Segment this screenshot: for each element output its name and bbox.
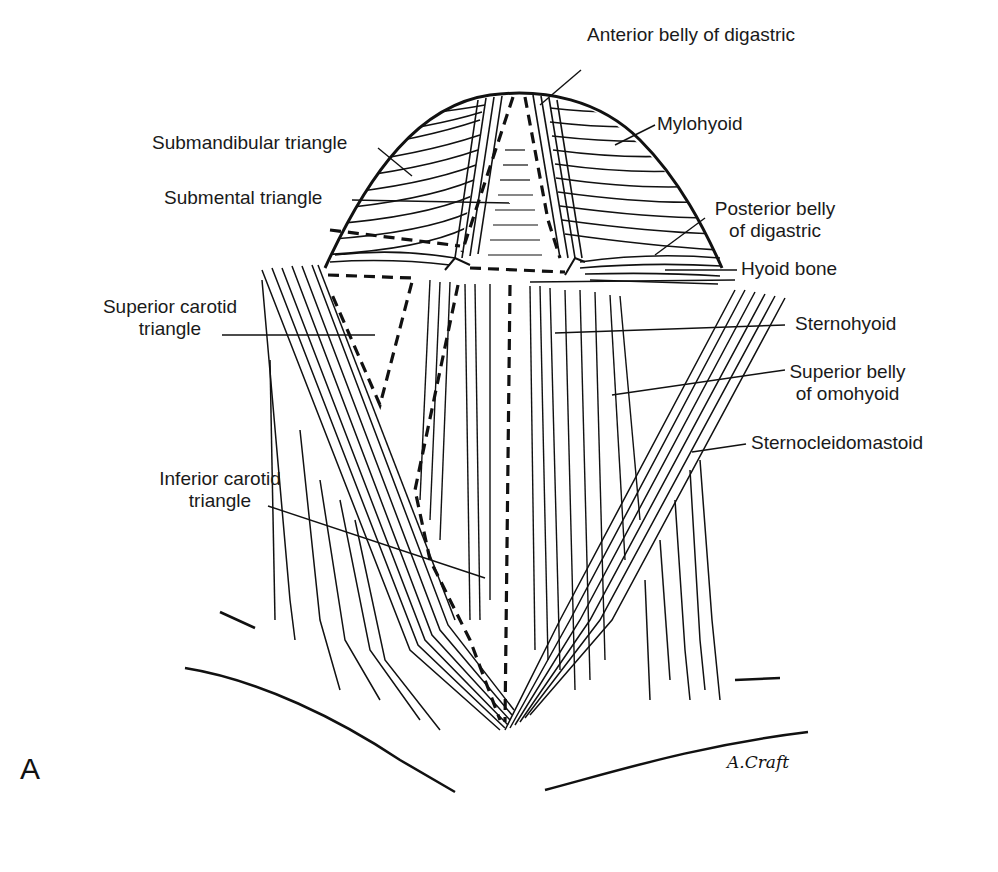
label-inferior-carotid-triangle: Inferior carotid triangle — [150, 468, 290, 512]
label-posterior-belly-line-2: of digastric — [705, 220, 845, 242]
label-superior-belly-of-omohyoid: Superior belly of omohyoid — [780, 361, 915, 405]
label-posterior-belly-of-digastric: Posterior belly of digastric — [705, 198, 845, 242]
label-submandibular-triangle: Submandibular triangle — [152, 132, 347, 154]
label-inferior-carotid-line-1: Inferior carotid — [150, 468, 290, 490]
label-submental-triangle: Submental triangle — [164, 187, 322, 209]
label-anterior-belly-of-digastric: Anterior belly of digastric — [587, 24, 795, 46]
label-inferior-carotid-line-2: triangle — [150, 490, 290, 512]
label-superior-carotid-line-1: Superior carotid — [100, 296, 240, 318]
label-sternocleidomastoid: Sternocleidomastoid — [751, 432, 923, 454]
label-posterior-belly-line-1: Posterior belly — [705, 198, 845, 220]
label-mylohyoid: Mylohyoid — [657, 113, 743, 135]
label-omohyoid-line-2: of omohyoid — [780, 383, 915, 405]
label-superior-carotid-triangle: Superior carotid triangle — [100, 296, 240, 340]
right-sternocleidomastoid — [505, 290, 785, 730]
panel-letter: A — [20, 752, 40, 786]
label-superior-carotid-line-2: triangle — [100, 318, 240, 340]
neck-triangles-illustration: Anterior belly of digastric Mylohyoid Su… — [0, 0, 998, 872]
artist-signature: A.Craft — [727, 752, 789, 772]
strap-muscles — [420, 280, 640, 690]
label-sternohyoid: Sternohyoid — [795, 313, 896, 335]
label-omohyoid-line-1: Superior belly — [780, 361, 915, 383]
label-hyoid-bone: Hyoid bone — [741, 258, 837, 280]
triangle-boundaries — [328, 97, 565, 722]
